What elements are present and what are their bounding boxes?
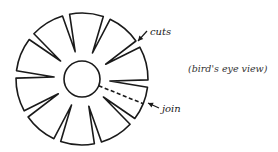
join-dashed-line	[99, 86, 144, 104]
join-line	[99, 86, 144, 104]
annotation-arrows	[138, 31, 159, 108]
cut-disc	[16, 13, 148, 145]
inner-circle	[64, 61, 100, 97]
view-caption: (bird's eye view)	[188, 63, 267, 74]
join-label: join	[162, 103, 181, 114]
cuts-label: cuts	[150, 26, 171, 37]
disc-with-cuts-diagram	[0, 0, 278, 152]
outer-rim-with-cuts	[16, 13, 148, 145]
